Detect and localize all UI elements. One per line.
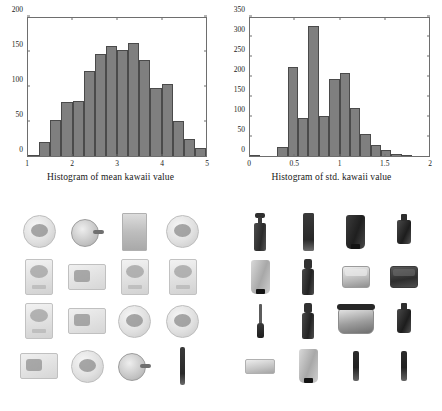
histogram-bar [139, 60, 150, 156]
tube-light-icon [251, 260, 270, 294]
product-thumbnail [159, 300, 206, 344]
product-thumbnail [64, 300, 111, 344]
histogram-bar [184, 139, 195, 156]
pan-pack-icon [118, 353, 151, 379]
product-thumbnail [333, 344, 380, 388]
y-tick-label: 250 [234, 46, 249, 54]
y-tick-mark [427, 136, 430, 137]
y-tick-mark [427, 36, 430, 37]
product-thumbnail [285, 210, 332, 254]
histogram-bar [381, 150, 391, 156]
y-tick-mark [427, 16, 430, 17]
y-tick-mark [249, 36, 252, 37]
product-thumbnail [333, 210, 380, 254]
y-tick-label: 100 [12, 76, 27, 84]
figure-page: 050100150200 12345 Histogram of mean kaw… [0, 0, 442, 411]
product-thumbnail [237, 344, 284, 388]
y-tick-label: 150 [12, 41, 27, 49]
product-thumbnail [333, 255, 380, 299]
histogram-bar [288, 67, 298, 156]
product-thumbnail [16, 255, 63, 299]
chart-mean-kawaii: 050100150200 12345 Histogram of mean kaw… [0, 0, 221, 196]
y-tick-mark [249, 96, 252, 97]
x-tick-mark [339, 154, 340, 157]
flacon-icon [397, 220, 411, 244]
product-thumbnail [285, 300, 332, 344]
histogram-bar [61, 102, 72, 156]
product-thumbnail [16, 300, 63, 344]
histogram-bar [319, 116, 329, 156]
wide-pack-icon [68, 308, 106, 334]
y-tick-label: 150 [234, 86, 249, 94]
histogram-bar [128, 43, 139, 156]
x-tick-mark [117, 17, 118, 20]
jar-dark-icon [390, 266, 418, 288]
y-tick-mark [27, 16, 30, 17]
plot-area-mean: 050100150200 12345 [27, 17, 207, 157]
x-tick-mark [294, 154, 295, 157]
non-kawaii-product-grid [237, 210, 427, 388]
product-thumbnail [64, 255, 111, 299]
brush-icon [257, 304, 264, 338]
product-thumbnail [285, 344, 332, 388]
plot-area-std: 050100150200250300350 00.511.52 [249, 17, 430, 157]
histogram-bar [195, 148, 206, 156]
y-tick-mark [27, 121, 30, 122]
histogram-bar [173, 121, 184, 156]
y-tick-label: 50 [238, 126, 250, 134]
product-thumbnail [64, 344, 111, 388]
chart-caption-std: Histogram of std. kawaii value [221, 172, 442, 182]
y-tick-mark [427, 116, 430, 117]
y-tick-mark [249, 116, 252, 117]
product-thumbnail [112, 210, 159, 254]
product-thumbnail [333, 300, 380, 344]
y-tick-label: 50 [16, 111, 28, 119]
x-tick-label: 2 [70, 157, 74, 168]
histogram-bar [162, 84, 173, 156]
x-tick-mark [384, 154, 385, 157]
flacon-icon [397, 309, 411, 333]
y-tick-mark [204, 51, 207, 52]
product-thumbnail [112, 300, 159, 344]
jar-icon [342, 266, 370, 288]
bar-series-std [250, 18, 429, 156]
sq-pack-icon [25, 303, 53, 339]
pencil-pair-icon [303, 213, 314, 251]
y-tick-label: 100 [234, 106, 249, 114]
y-tick-mark [427, 96, 430, 97]
y-tick-label: 200 [234, 66, 249, 74]
bottle-pump-icon [254, 213, 266, 251]
y-tick-label: 200 [12, 6, 27, 14]
x-tick-label: 1 [338, 157, 342, 168]
x-tick-mark [339, 17, 340, 20]
x-tick-label: 1.5 [380, 157, 389, 168]
kawaii-product-grid [16, 210, 206, 388]
product-thumbnail [380, 300, 427, 344]
histogram-bar [28, 155, 39, 156]
histogram-bar [308, 26, 318, 156]
spray-icon [302, 259, 314, 295]
histogram-bar [298, 118, 308, 156]
x-tick-mark [384, 17, 385, 20]
x-tick-mark [117, 154, 118, 157]
y-tick-mark [27, 51, 30, 52]
histogram-bar [340, 73, 350, 156]
histogram-bar [350, 108, 360, 156]
grid-block-kawaii [0, 196, 221, 396]
histogram-bar [50, 120, 61, 156]
y-tick-mark [427, 56, 430, 57]
tall-sheet-icon [122, 213, 147, 251]
y-tick-mark [249, 16, 252, 17]
histogram-bar [150, 88, 161, 156]
product-thumbnail [237, 300, 284, 344]
product-thumbnail [380, 255, 427, 299]
product-thumbnail [112, 344, 159, 388]
histogram-bar [117, 50, 128, 156]
bar-series-mean [28, 18, 206, 156]
round-pack-icon [71, 350, 104, 383]
histogram-bar [329, 79, 339, 156]
jar-wide-icon [338, 308, 374, 334]
product-thumbnail [380, 344, 427, 388]
product-thumbnail [159, 255, 206, 299]
product-thumbnail [237, 210, 284, 254]
